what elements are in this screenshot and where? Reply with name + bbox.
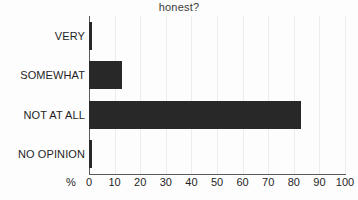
x-tick-label: 0 xyxy=(86,176,92,188)
bar xyxy=(89,101,301,129)
bar xyxy=(89,140,92,168)
x-axis-tick-labels: % 0102030405060708090100 xyxy=(0,176,358,194)
bar-row xyxy=(89,95,345,135)
bar-row xyxy=(89,56,345,96)
x-tick-label: 50 xyxy=(211,176,223,188)
bar-chart: honest? VERYSOMEWHATNOT AT ALLNO OPINION… xyxy=(0,0,358,200)
chart-title: honest? xyxy=(0,1,358,13)
x-tick-label: 70 xyxy=(262,176,274,188)
bar-row xyxy=(89,16,345,56)
bar xyxy=(89,61,122,89)
bar-series xyxy=(89,16,345,174)
x-tick-label: 60 xyxy=(236,176,248,188)
percent-unit-label: % xyxy=(66,176,76,188)
category-label: VERY xyxy=(0,16,85,56)
x-tick-label: 40 xyxy=(185,176,197,188)
x-tick-label: 100 xyxy=(336,176,354,188)
x-tick-label: 80 xyxy=(288,176,300,188)
x-tick-label: 90 xyxy=(313,176,325,188)
x-tick-label: 20 xyxy=(134,176,146,188)
category-label: SOMEWHAT xyxy=(0,56,85,96)
x-axis-line xyxy=(89,174,346,175)
x-tick-label: 30 xyxy=(160,176,172,188)
plot-area xyxy=(89,16,345,174)
category-label: NOT AT ALL xyxy=(0,95,85,135)
gridline xyxy=(345,16,346,174)
x-tick-label: 10 xyxy=(108,176,120,188)
bar-row xyxy=(89,135,345,175)
bar xyxy=(89,22,92,50)
category-axis-labels: VERYSOMEWHATNOT AT ALLNO OPINION xyxy=(0,16,85,174)
category-label: NO OPINION xyxy=(0,135,85,175)
